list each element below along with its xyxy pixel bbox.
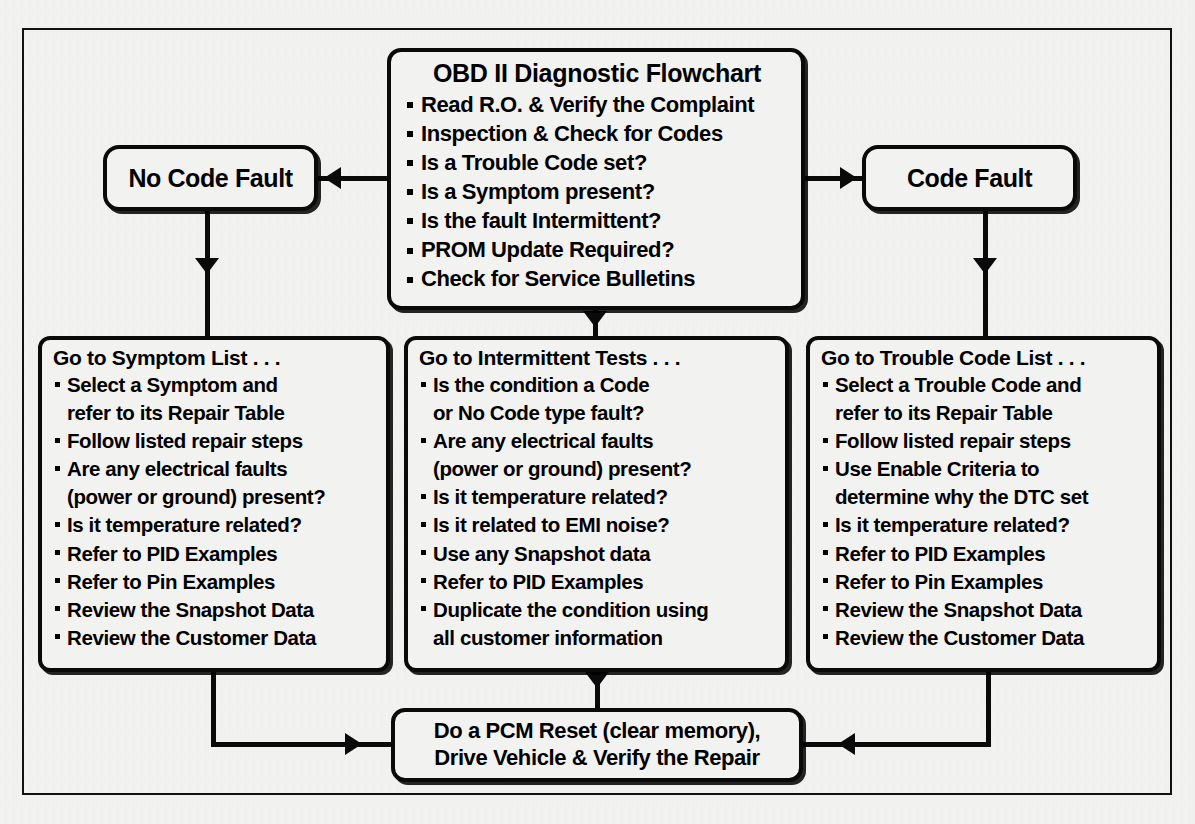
symptom-box-list: Select a Symptom and refer to its Repair… — [53, 371, 377, 652]
main-box-title: OBD II Diagnostic Flowchart — [405, 60, 789, 86]
intermittent-box-item: Is it temperature related? — [419, 483, 776, 511]
connector-no-code-to-symptom-line — [205, 209, 210, 339]
connector-trouble-to-pcm-vline — [986, 668, 991, 747]
trouble-box-item: refer to its Repair Table — [821, 399, 1148, 427]
connector-symptom-to-pcm-vline — [211, 668, 216, 747]
connector-trouble-to-pcm-arrow — [838, 733, 855, 755]
connector-code-to-trouble-line — [983, 209, 988, 339]
no-code-fault-box[interactable]: No Code Fault — [103, 145, 318, 211]
symptom-box-item: Follow listed repair steps — [53, 427, 377, 455]
connector-main-to-no-code-arrow — [324, 167, 341, 189]
trouble-box-item: Refer to PID Examples — [821, 540, 1148, 568]
main-box-item: Check for Service Bulletins — [405, 264, 789, 293]
symptom-box-item: Refer to PID Examples — [53, 540, 377, 568]
symptom-list-box[interactable]: Go to Symptom List . . . Select a Sympto… — [38, 336, 390, 672]
pcm-reset-box[interactable]: Do a PCM Reset (clear memory), Drive Veh… — [391, 708, 803, 782]
connector-symptom-to-pcm-arrow — [345, 733, 362, 755]
connector-main-to-intermittent-arrow — [583, 311, 607, 327]
main-box-item: Is a Symptom present? — [405, 177, 789, 206]
connector-no-code-to-symptom-arrow — [195, 258, 219, 274]
trouble-box-title: Go to Trouble Code List . . . — [821, 346, 1148, 369]
connector-main-to-code-arrow — [840, 167, 857, 189]
pcm-reset-line-1: Do a PCM Reset (clear memory), — [405, 718, 789, 745]
intermittent-box-item: (power or ground) present? — [419, 455, 776, 483]
main-box-item: Read R.O. & Verify the Complaint — [405, 90, 789, 119]
intermittent-box-item: Is it related to EMI noise? — [419, 511, 776, 539]
code-fault-box[interactable]: Code Fault — [862, 145, 1077, 211]
symptom-box-item: (power or ground) present? — [53, 483, 377, 511]
trouble-box-item: Use Enable Criteria to — [821, 455, 1148, 483]
intermittent-box-list: Is the condition a Code or No Code type … — [419, 371, 776, 652]
trouble-box-item: Select a Trouble Code and — [821, 371, 1148, 399]
main-box-item: Is a Trouble Code set? — [405, 148, 789, 177]
trouble-box-list: Select a Trouble Code and refer to its R… — [821, 371, 1148, 652]
trouble-box-item: Refer to Pin Examples — [821, 568, 1148, 596]
flowchart-canvas: OBD II Diagnostic Flowchart Read R.O. & … — [0, 0, 1195, 824]
connector-trouble-to-pcm-hline — [800, 742, 991, 747]
code-fault-label: Code Fault — [907, 164, 1032, 193]
symptom-box-item: refer to its Repair Table — [53, 399, 377, 427]
trouble-box-item: Review the Customer Data — [821, 624, 1148, 652]
symptom-box-item: Are any electrical faults — [53, 455, 377, 483]
intermittent-box-item: all customer information — [419, 624, 776, 652]
intermittent-box-item: Use any Snapshot data — [419, 540, 776, 568]
main-box-list: Read R.O. & Verify the Complaint Inspect… — [405, 90, 789, 293]
main-box-item: Is the fault Intermittent? — [405, 206, 789, 235]
intermittent-box-item: or No Code type fault? — [419, 399, 776, 427]
intermittent-box-item: Refer to PID Examples — [419, 568, 776, 596]
pcm-reset-line-2: Drive Vehicle & Verify the Repair — [405, 745, 789, 772]
intermittent-box-item: Duplicate the condition using — [419, 596, 776, 624]
main-diagnostic-box[interactable]: OBD II Diagnostic Flowchart Read R.O. & … — [387, 48, 805, 310]
symptom-box-item: Is it temperature related? — [53, 511, 377, 539]
intermittent-box-item: Is the condition a Code — [419, 371, 776, 399]
symptom-box-item: Refer to Pin Examples — [53, 568, 377, 596]
connector-symptom-to-pcm-hline — [211, 742, 395, 747]
connector-intermittent-to-pcm-arrow — [585, 672, 609, 688]
trouble-box-item: Is it temperature related? — [821, 511, 1148, 539]
main-box-item: Inspection & Check for Codes — [405, 119, 789, 148]
intermittent-box-item: Are any electrical faults — [419, 427, 776, 455]
symptom-box-item: Review the Snapshot Data — [53, 596, 377, 624]
symptom-box-item: Review the Customer Data — [53, 624, 377, 652]
symptom-box-item: Select a Symptom and — [53, 371, 377, 399]
intermittent-box-title: Go to Intermittent Tests . . . — [419, 346, 776, 369]
connector-code-to-trouble-arrow — [973, 258, 997, 274]
trouble-box-item: determine why the DTC set — [821, 483, 1148, 511]
symptom-box-title: Go to Symptom List . . . — [53, 346, 377, 369]
trouble-box-item: Review the Snapshot Data — [821, 596, 1148, 624]
intermittent-tests-box[interactable]: Go to Intermittent Tests . . . Is the co… — [404, 336, 789, 672]
trouble-code-list-box[interactable]: Go to Trouble Code List . . . Select a T… — [806, 336, 1161, 672]
main-box-item: PROM Update Required? — [405, 235, 789, 264]
trouble-box-item: Follow listed repair steps — [821, 427, 1148, 455]
no-code-fault-label: No Code Fault — [128, 164, 292, 193]
